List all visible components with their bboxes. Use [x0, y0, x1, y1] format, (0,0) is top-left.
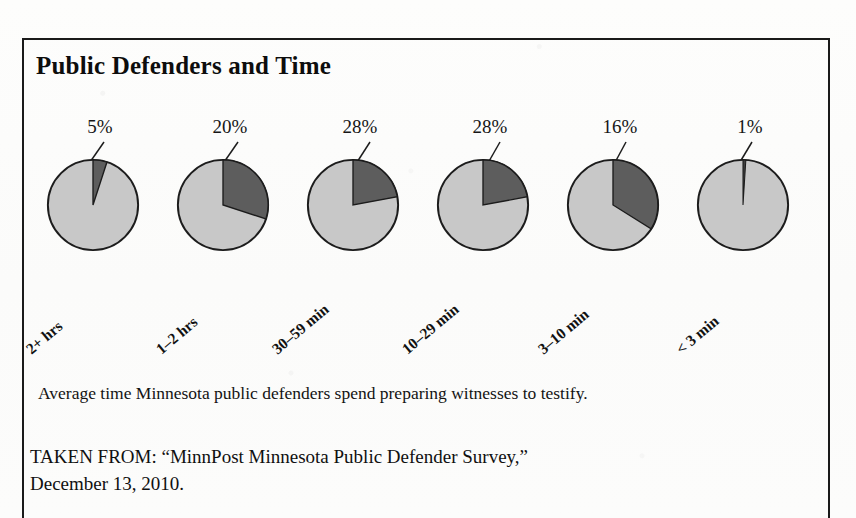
category-label-10-29-min: 10–29 min: [398, 300, 462, 358]
pie-slices: [45, 155, 141, 255]
pie-slices: [305, 155, 401, 255]
pie-value-label: 28%: [295, 116, 425, 138]
pie-value-label: 20%: [165, 116, 295, 138]
category-label-2-plus-hrs: 2+ hrs: [22, 317, 66, 358]
pie-chart-3-10-min: 16%: [548, 110, 678, 290]
pie-slices: [435, 155, 531, 255]
pie-slices: [175, 155, 271, 255]
category-label-under-3-min: < 3 min: [672, 312, 722, 358]
pie-value-label: 1%: [685, 116, 815, 138]
category-label-30-59-min: 30–59 min: [268, 300, 332, 358]
pie-value-label: 5%: [35, 116, 165, 138]
pie-chart-1-2-hrs: 20%: [158, 110, 288, 290]
source-attribution: TAKEN FROM: “MinnPost Minnesota Public D…: [30, 443, 800, 497]
pie-chart-group: 5% 20% 28% 28%: [22, 110, 830, 290]
pie-value-label: 16%: [555, 116, 685, 138]
pie-chart-under-3-min: 1%: [678, 110, 808, 290]
chart-caption: Average time Minnesota public defenders …: [38, 383, 798, 404]
pie-slices: [565, 155, 661, 255]
pie-slices: [695, 155, 791, 255]
category-axis-labels: 2+ hrs 1–2 hrs 30–59 min 10–29 min 3–10 …: [22, 288, 830, 366]
category-label-3-10-min: 3–10 min: [534, 305, 592, 358]
category-label-1-2-hrs: 1–2 hrs: [152, 313, 201, 358]
pie-chart-2-plus-hrs: 5%: [28, 110, 158, 290]
source-line-2: December 13, 2010.: [30, 470, 800, 497]
figure-title: Public Defenders and Time: [36, 52, 331, 80]
pie-value-label: 28%: [425, 116, 555, 138]
source-line-1: TAKEN FROM: “MinnPost Minnesota Public D…: [30, 443, 800, 470]
pie-chart-30-59-min: 28%: [288, 110, 418, 290]
pie-chart-10-29-min: 28%: [418, 110, 548, 290]
